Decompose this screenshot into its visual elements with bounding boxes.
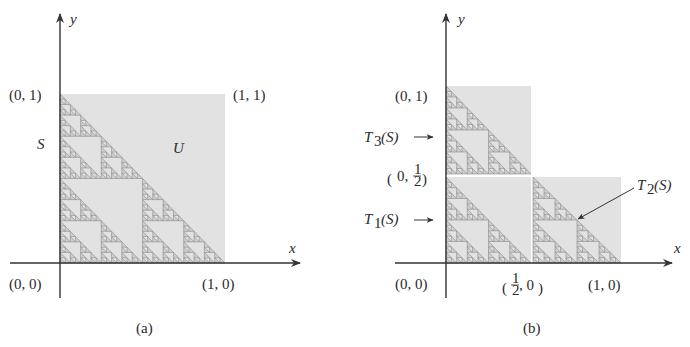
label-half-0: ( 1 2 , 0 ) xyxy=(502,270,543,298)
label-U: U xyxy=(173,140,185,156)
label-0-1: (0, 1) xyxy=(9,87,42,104)
label-T1S: T 1 (S) xyxy=(364,211,399,231)
label-0-0: (0, 0) xyxy=(9,276,42,293)
y-axis-label: y xyxy=(68,11,77,27)
label-1-1: (1, 1) xyxy=(233,87,266,104)
paren-right: ) xyxy=(538,280,543,297)
paren-right: ) xyxy=(422,171,427,188)
figure: y x (0, 1) (1, 1) S U (0, 0) (1, 0) (a) … xyxy=(0,0,690,347)
T2-argument: (S) xyxy=(654,177,672,194)
label-T3S: T 3 (S) xyxy=(364,129,399,149)
half-denominator: 2 xyxy=(414,173,422,189)
label-S: S xyxy=(37,136,45,152)
caption-a: (a) xyxy=(136,320,153,337)
label-1-0: (1, 0) xyxy=(202,276,235,293)
T1-argument: (S) xyxy=(381,211,399,228)
T2-symbol: T xyxy=(637,177,647,193)
caption-b: (b) xyxy=(523,320,541,337)
x-axis-label: x xyxy=(288,240,296,256)
panel-a: y x (0, 1) (1, 1) S U (0, 0) (1, 0) (a) xyxy=(9,11,300,337)
T1-symbol: T xyxy=(364,211,374,227)
label-1-0-b: (1, 0) xyxy=(588,277,621,294)
T3-symbol: T xyxy=(364,129,374,145)
label-0-1-b: (0, 1) xyxy=(395,88,428,105)
y-axis-label-b: y xyxy=(456,11,465,27)
label-0-0-b: (0, 0) xyxy=(395,276,428,293)
paren-left: ( xyxy=(502,280,507,297)
label-T2S: T 2 (S) xyxy=(637,177,672,197)
panel-b: y x (0, 1) T 3 (S) ( 0, 1 2 ) T 1 (S) T xyxy=(364,11,681,337)
T3-argument: (S) xyxy=(381,129,399,146)
zero: , 0 xyxy=(519,277,534,293)
zero: 0, xyxy=(397,168,408,184)
paren-left: ( xyxy=(387,171,392,188)
label-0-half: ( 0, 1 2 ) xyxy=(387,161,427,189)
x-axis-label-b: x xyxy=(673,240,681,256)
